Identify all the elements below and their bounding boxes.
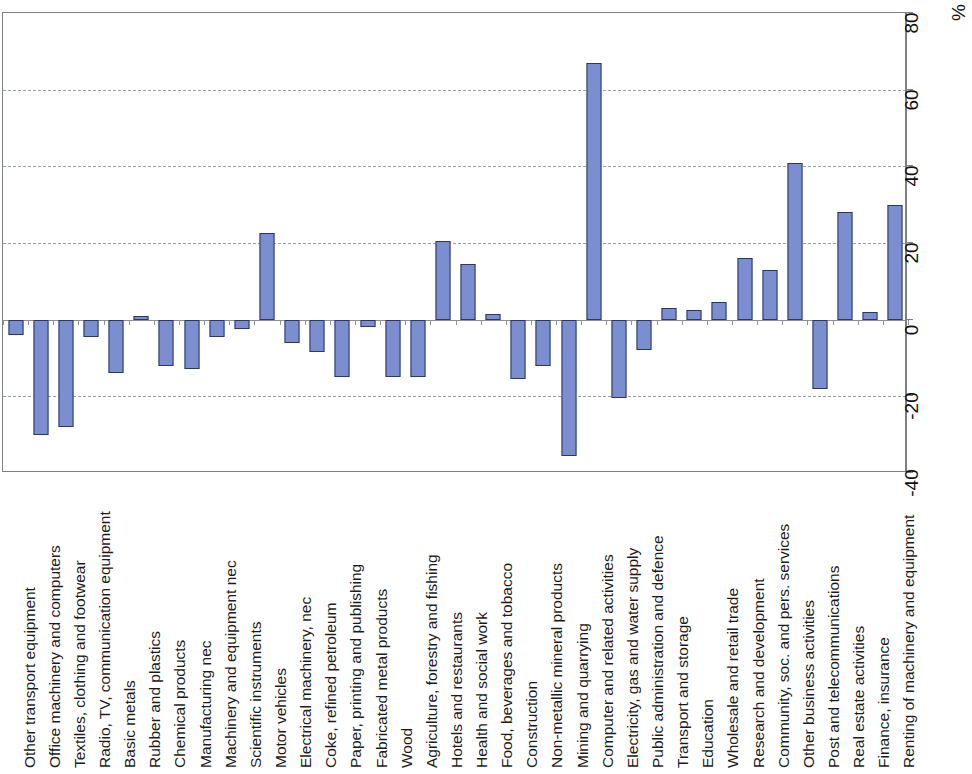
- category-label: Electricity, gas and water supply: [624, 548, 642, 768]
- bar[interactable]: [813, 320, 828, 389]
- bar[interactable]: [335, 320, 350, 378]
- bar-slot: [833, 13, 858, 471]
- category-label: Wholesale and retail trade: [724, 588, 742, 768]
- bar[interactable]: [486, 314, 501, 320]
- category-label: Finance, insurance: [875, 637, 893, 768]
- bar-slot: [506, 13, 531, 471]
- value-axis-label: 40: [901, 166, 923, 187]
- bar[interactable]: [184, 320, 199, 370]
- chart-root: -40-20020406080 % Other transport equipm…: [0, 0, 972, 774]
- bar-slot: [380, 13, 405, 471]
- bar-slot: [229, 13, 254, 471]
- category-label: Office machinery and computers: [46, 545, 64, 768]
- bar[interactable]: [8, 320, 23, 335]
- bar-slot: [606, 13, 631, 471]
- bar[interactable]: [511, 320, 526, 379]
- value-axis-label: -20: [901, 393, 923, 420]
- bar[interactable]: [410, 320, 425, 378]
- bar-slot: [254, 13, 279, 471]
- bar-slot: [782, 13, 807, 471]
- category-label: Community, soc. and pers. services: [775, 524, 793, 768]
- bar-slot: [556, 13, 581, 471]
- bar-slot: [456, 13, 481, 471]
- bar[interactable]: [637, 320, 652, 351]
- category-label: Hotels and restaurants: [448, 612, 466, 768]
- category-label: Computer and related activities: [599, 554, 617, 768]
- bar[interactable]: [863, 312, 878, 320]
- bar-slot: [154, 13, 179, 471]
- category-label: Coke, refined petroleum: [322, 603, 340, 768]
- category-label: Chemical products: [171, 640, 189, 768]
- bar-slot: [807, 13, 832, 471]
- category-label: Machinery and equipment nec: [222, 560, 240, 768]
- category-label: Construction: [523, 681, 541, 768]
- bar[interactable]: [712, 302, 727, 319]
- category-label: Scientific instruments: [247, 622, 265, 768]
- bar[interactable]: [385, 320, 400, 378]
- category-label: Mining and quarrying: [574, 623, 592, 768]
- bar-slot: [631, 13, 656, 471]
- category-label: Public administration and defence: [649, 535, 667, 768]
- category-label: Non-metallic mineral products: [548, 563, 566, 768]
- category-label: Rubber and plastics: [146, 631, 164, 768]
- bar[interactable]: [737, 258, 752, 319]
- bar[interactable]: [109, 320, 124, 374]
- category-label: Transport and storage: [674, 616, 692, 768]
- bars-group: [3, 13, 906, 471]
- bar[interactable]: [310, 320, 325, 353]
- bar-slot: [3, 13, 28, 471]
- bar[interactable]: [536, 320, 551, 366]
- bar-slot: [78, 13, 103, 471]
- axis-unit-label: %: [948, 4, 970, 21]
- bar[interactable]: [134, 316, 149, 320]
- bar-slot: [129, 13, 154, 471]
- category-label: Textiles, clothing and footwear: [71, 560, 89, 768]
- value-axis-label: 60: [901, 89, 923, 110]
- bar-slot: [531, 13, 556, 471]
- bar-slot: [179, 13, 204, 471]
- category-label: Fabricated metal products: [373, 589, 391, 768]
- category-label: Motor vehicles: [272, 668, 290, 768]
- bar[interactable]: [662, 308, 677, 320]
- category-axis-labels: Other transport equipmentOffice machiner…: [2, 478, 907, 774]
- bar-slot: [682, 13, 707, 471]
- bar-slot: [757, 13, 782, 471]
- bar[interactable]: [360, 320, 375, 328]
- bar[interactable]: [787, 163, 802, 320]
- bar[interactable]: [435, 241, 450, 320]
- category-label: Education: [699, 699, 717, 768]
- bar[interactable]: [461, 264, 476, 320]
- bar-slot: [481, 13, 506, 471]
- bar[interactable]: [687, 310, 702, 320]
- bar[interactable]: [586, 63, 601, 320]
- bar[interactable]: [838, 212, 853, 319]
- bar-slot: [355, 13, 380, 471]
- bar[interactable]: [159, 320, 174, 366]
- bar[interactable]: [611, 320, 626, 399]
- bar[interactable]: [259, 233, 274, 319]
- bar-slot: [204, 13, 229, 471]
- bar[interactable]: [58, 320, 73, 427]
- bar[interactable]: [33, 320, 48, 435]
- category-label: Paper, printing and publishing: [347, 564, 365, 768]
- plot-area: [2, 12, 907, 472]
- bar[interactable]: [209, 320, 224, 337]
- category-label: Real estate activities: [850, 626, 868, 768]
- bar-slot: [732, 13, 757, 471]
- category-label: Electrical machinery, nec: [297, 597, 315, 768]
- bar-slot: [28, 13, 53, 471]
- bar-slot: [581, 13, 606, 471]
- bar-slot: [707, 13, 732, 471]
- bar[interactable]: [234, 320, 249, 330]
- value-axis-tick: [906, 319, 913, 320]
- bar-slot: [330, 13, 355, 471]
- category-label: Manufacturing nec: [197, 640, 215, 768]
- bar-slot: [405, 13, 430, 471]
- bar[interactable]: [561, 320, 576, 456]
- category-label: Food, beverages and tobacco: [498, 563, 516, 768]
- bar[interactable]: [762, 270, 777, 320]
- bar[interactable]: [285, 320, 300, 343]
- category-label: Research and development: [750, 578, 768, 768]
- bar[interactable]: [83, 320, 98, 337]
- value-axis-label: 0: [901, 324, 923, 335]
